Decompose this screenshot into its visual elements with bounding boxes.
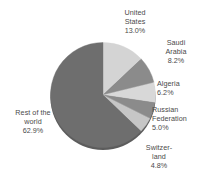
slice-value: 8.2%: [155, 56, 197, 65]
slice-label-line: United: [113, 8, 157, 17]
slice-label-united-states: United States 13.0%: [113, 8, 157, 36]
slice-label-line: Arabia: [155, 47, 197, 56]
slice-label-line: States: [113, 17, 157, 26]
slice-label-switzerland: Switzer- land 4.8%: [137, 143, 181, 171]
slice-label-algeria: Algeria 6.2%: [157, 79, 203, 97]
slice-label-line: Switzer-: [137, 143, 181, 152]
slice-label-russian-federation: Russian Federation 5.0%: [152, 105, 204, 133]
slice-label-line: Algeria: [157, 79, 203, 88]
slice-label-saudi-arabia: Saudi Arabia 8.2%: [155, 38, 197, 66]
slice-label-line: Saudi: [155, 38, 197, 47]
slice-label-line: land: [137, 152, 181, 161]
pie-chart-figure: United States 13.0% Saudi Arabia 8.2% Al…: [0, 0, 217, 183]
slice-value: 4.8%: [137, 161, 181, 170]
slice-value: 13.0%: [113, 26, 157, 35]
slice-value: 62.9%: [2, 126, 64, 135]
slice-value: 6.2%: [157, 88, 203, 97]
slice-label-line: world: [2, 117, 64, 126]
slice-label-line: Russian: [152, 105, 204, 114]
slice-label-rest-of-the-world: Rest of the world 62.9%: [2, 108, 64, 136]
slice-value: 5.0%: [152, 123, 204, 132]
slice-label-line: Rest of the: [2, 108, 64, 117]
slice-label-line: Federation: [152, 114, 204, 123]
pie-slice-group: [51, 43, 156, 148]
